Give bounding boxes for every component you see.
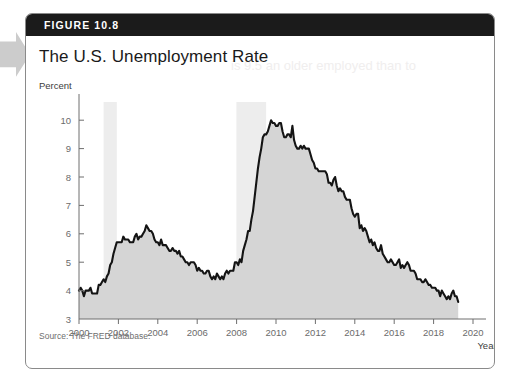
unemployment-rate-chart: 2000200220042006200820102012201420162018… — [26, 14, 495, 369]
source-note: Source: The FRED database. — [39, 331, 150, 341]
svg-text:Year: Year — [477, 340, 495, 351]
svg-text:2016: 2016 — [384, 327, 405, 338]
figure-card: FIGURE 10.8 is 9.5 an older employed tha… — [25, 13, 495, 369]
svg-text:2004: 2004 — [147, 327, 168, 338]
svg-text:5: 5 — [66, 257, 71, 268]
svg-text:2018: 2018 — [423, 327, 444, 338]
svg-text:4: 4 — [66, 285, 71, 296]
svg-text:2006: 2006 — [187, 327, 208, 338]
svg-text:8: 8 — [66, 172, 71, 183]
svg-text:9: 9 — [66, 143, 71, 154]
svg-text:2014: 2014 — [344, 327, 365, 338]
svg-text:3: 3 — [66, 314, 71, 325]
svg-text:2012: 2012 — [305, 327, 326, 338]
svg-text:6: 6 — [66, 228, 71, 239]
svg-text:2020: 2020 — [462, 327, 483, 338]
svg-text:2010: 2010 — [265, 327, 286, 338]
svg-text:10: 10 — [60, 115, 71, 126]
svg-text:7: 7 — [66, 200, 71, 211]
svg-text:2008: 2008 — [226, 327, 247, 338]
y-axis-tick-labels: 345678910 — [60, 115, 71, 325]
x-axis-title: Year — [477, 340, 495, 351]
chart-area-fill — [79, 120, 458, 319]
